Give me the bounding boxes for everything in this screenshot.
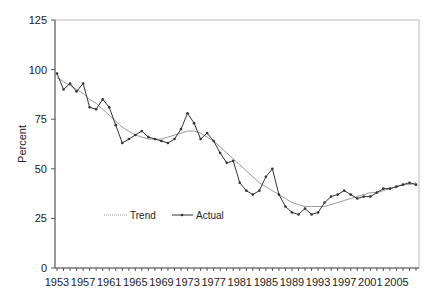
data-point [219,152,222,155]
data-point [408,181,411,184]
data-point [369,195,372,198]
y-axis-title: Percent [16,125,28,163]
data-point [134,134,137,137]
data-point [389,187,392,190]
data-point [310,213,313,216]
data-point [147,136,150,139]
data-point [291,211,294,214]
plot-frame [55,20,419,268]
data-point [336,193,339,196]
data-point [317,211,320,214]
x-tick-label: 1957 [71,276,95,288]
data-point [212,140,215,143]
x-tick-label: 1989 [280,276,304,288]
data-point [323,201,326,204]
x-tick-label: 1997 [332,276,356,288]
x-tick-label: 1965 [123,276,147,288]
data-point [88,106,91,109]
data-point [297,213,300,216]
x-tick-label: 1993 [306,276,330,288]
y-tick-label: 50 [35,163,47,175]
data-point [245,189,248,192]
data-point [173,138,176,141]
y-tick-label: 0 [41,262,47,274]
data-point [402,183,405,186]
x-tick-label: 1977 [201,276,225,288]
x-tick-label: 1985 [254,276,278,288]
data-point [56,72,59,75]
data-point [232,160,235,163]
x-tick-label: 1969 [149,276,173,288]
data-point [284,205,287,208]
data-point [330,195,333,198]
x-tick-label: 1973 [175,276,199,288]
data-point [271,168,274,171]
data-point [238,181,241,184]
data-point [265,175,268,178]
data-point [382,187,385,190]
line-chart: 0255075100125 19531957196119651969197319… [0,0,443,306]
data-point [395,185,398,188]
x-tick-label: 2005 [384,276,408,288]
data-point [252,193,255,196]
y-tick-label: 125 [29,14,47,26]
x-tick-label: 2001 [358,276,382,288]
x-axis: 1953195719611965196919731977198119851989… [45,268,416,288]
x-tick-label: 1981 [228,276,252,288]
legend-trend-label: Trend [130,210,156,221]
data-point [206,132,209,135]
trend-series [57,78,416,207]
data-point [62,88,65,91]
data-point [180,128,183,131]
legend-actual-marker [181,214,184,217]
data-point [154,138,157,141]
data-point [82,82,85,85]
data-point [343,189,346,192]
data-point [101,98,104,101]
data-point [160,140,163,143]
data-point [186,112,189,115]
trend-line [57,78,416,207]
data-point [121,142,124,145]
data-point [356,197,359,200]
legend-actual-label: Actual [196,210,224,221]
data-point [69,82,72,85]
data-point [278,193,281,196]
data-point [304,207,307,210]
y-tick-label: 75 [35,113,47,125]
y-tick-label: 100 [29,64,47,76]
data-point [75,90,78,93]
y-tick-label: 25 [35,212,47,224]
data-point [199,138,202,141]
actual-line [57,74,416,215]
data-point [167,142,170,145]
y-axis: 0255075100125 [29,14,55,274]
data-point [349,193,352,196]
data-point [141,130,144,133]
legend: Trend Actual [104,210,224,221]
data-point [108,106,111,109]
data-point [95,108,98,111]
data-point [114,124,117,127]
data-point [225,162,228,165]
data-point [128,138,131,141]
x-tick-label: 1953 [45,276,69,288]
plot-border [55,20,419,268]
data-point [415,183,418,186]
x-tick-label: 1961 [97,276,121,288]
actual-series [56,72,418,215]
data-point [193,122,196,125]
data-point [376,191,379,194]
data-point [362,195,365,198]
data-point [258,189,261,192]
